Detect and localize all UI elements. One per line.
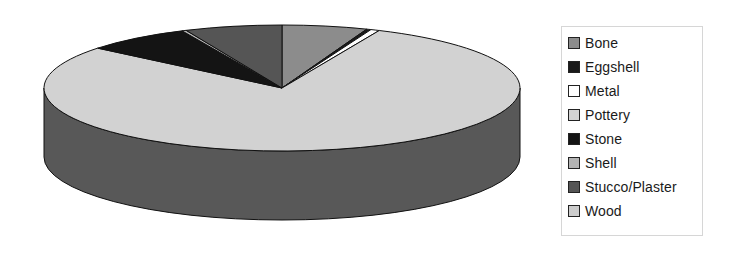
legend-swatch-bone (568, 37, 580, 49)
chart-legend: Bone Eggshell Metal Pottery Stone Shell … (561, 26, 703, 236)
legend-label: Metal (585, 83, 620, 99)
legend-item-eggshell: Eggshell (568, 59, 640, 75)
legend-item-pottery: Pottery (568, 107, 630, 123)
legend-label: Wood (585, 203, 622, 219)
legend-item-stucco-plaster: Stucco/Plaster (568, 179, 677, 195)
legend-swatch-stucco-plaster (568, 181, 580, 193)
legend-label: Bone (585, 35, 618, 51)
legend-swatch-pottery (568, 109, 580, 121)
pie-top-face (44, 25, 520, 151)
pie-chart (0, 0, 560, 255)
legend-label: Stone (585, 131, 622, 147)
legend-swatch-stone (568, 133, 580, 145)
legend-swatch-shell (568, 157, 580, 169)
legend-swatch-metal (568, 85, 580, 97)
legend-item-metal: Metal (568, 83, 620, 99)
legend-item-bone: Bone (568, 35, 618, 51)
legend-label: Shell (585, 155, 617, 171)
legend-item-shell: Shell (568, 155, 617, 171)
legend-swatch-eggshell (568, 61, 580, 73)
legend-label: Stucco/Plaster (585, 179, 677, 195)
legend-label: Eggshell (585, 59, 640, 75)
legend-swatch-wood (568, 205, 580, 217)
legend-item-wood: Wood (568, 203, 622, 219)
legend-item-stone: Stone (568, 131, 622, 147)
legend-label: Pottery (585, 107, 630, 123)
